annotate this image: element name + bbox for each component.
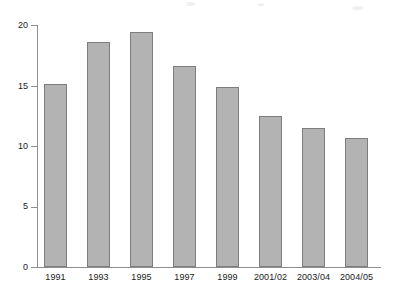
- y-tick-label-10: 10: [0, 141, 28, 151]
- y-tick-20: [31, 25, 37, 26]
- scan-artifact: [258, 3, 264, 6]
- y-tick-10: [31, 146, 37, 147]
- x-axis-line: [37, 267, 381, 268]
- y-axis-line: [37, 25, 38, 268]
- bar-1999: [216, 87, 239, 267]
- bar-1993: [87, 42, 110, 267]
- bar-2003-04: [302, 128, 325, 267]
- y-tick-5: [31, 207, 37, 208]
- x-label-2004-05: 2004/05: [331, 272, 382, 282]
- bar-1991: [44, 84, 67, 267]
- bar-2004-05: [345, 138, 368, 267]
- scan-artifact: [352, 6, 364, 10]
- y-tick-label-15: 15: [0, 81, 28, 91]
- y-tick-label-5: 5: [0, 201, 28, 211]
- y-tick-0: [31, 267, 37, 268]
- bar-chart: 0 5 10 15 20 1991 1993 1995 1997 1999 20…: [0, 0, 395, 301]
- bar-1997: [173, 66, 196, 267]
- bar-2001-02: [259, 116, 282, 267]
- y-tick-label-0: 0: [0, 262, 28, 272]
- bar-1995: [130, 32, 153, 267]
- y-tick-15: [31, 86, 37, 87]
- scan-artifact: [186, 2, 195, 6]
- y-tick-label-20: 20: [0, 20, 28, 30]
